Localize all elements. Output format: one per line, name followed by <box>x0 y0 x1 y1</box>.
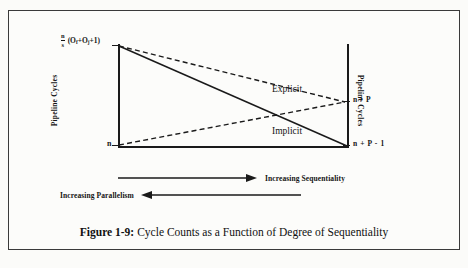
line-explicit-upper-dashed <box>119 46 345 102</box>
series-label-implicit: Implicit <box>272 126 302 136</box>
series-label-explicit: Explicit <box>272 84 302 94</box>
direction-label-parallelism: Increasing Parallelism <box>60 191 134 200</box>
caption-number: Figure 1-9: <box>80 226 134 238</box>
direction-label-sequentiality: Increasing Sequentiality <box>265 174 345 183</box>
direction-row-parallelism: Increasing Parallelism <box>60 189 301 201</box>
arrow-left-icon <box>141 190 301 200</box>
caption-text: Cycle Counts as a Function of Degree of … <box>137 226 388 238</box>
chart-region: Pipeline Cycles Pipeline Cycles n s (O f… <box>0 0 468 215</box>
direction-row-sequentiality: Increasing Sequentiality <box>118 172 345 184</box>
scanned-figure-page: Pipeline Cycles Pipeline Cycles n s (O f… <box>0 0 468 268</box>
arrow-right-icon <box>118 173 258 183</box>
line-implicit-dashed <box>119 102 345 145</box>
figure-caption: Figure 1-9:Cycle Counts as a Function of… <box>0 226 468 238</box>
line-explicit-solid <box>119 46 347 146</box>
